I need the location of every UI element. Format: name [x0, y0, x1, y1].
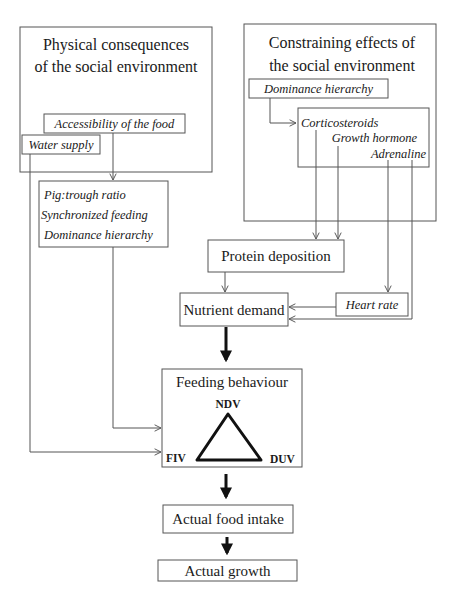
actual-food-intake-label: Actual food intake [172, 511, 284, 527]
vertex-fiv-label: FIV [166, 452, 187, 464]
constraining-title-line2: the social environment [269, 57, 415, 74]
constraining-title-line1: Constraining effects of [269, 34, 416, 52]
physical-title-line1: Physical consequences [43, 36, 189, 54]
physical-consequences-group: Physical consequences of the social envi… [20, 27, 212, 172]
hormone-growth-hormone: Growth hormone [332, 131, 418, 145]
feeding-behaviour-group: Feeding behaviour NDV FIV DUV [162, 369, 302, 467]
pig-factor-synchronized-feeding: Synchronized feeding [41, 208, 148, 222]
arrow-pig-factors-to-feeding [113, 247, 161, 428]
water-supply-label: Water supply [28, 138, 94, 152]
nutrient-demand-label: Nutrient demand [183, 302, 285, 318]
protein-deposition-label: Protein deposition [221, 248, 331, 264]
pig-factor-trough-ratio: Pig:trough ratio [43, 188, 126, 202]
heart-rate-label: Heart rate [345, 298, 399, 312]
feeding-behaviour-title: Feeding behaviour [176, 374, 288, 390]
dominance-hierarchy-label: Dominance hierarchy [263, 82, 373, 96]
hormone-adrenaline: Adrenaline [370, 147, 427, 161]
physical-title-line2: of the social environment [34, 58, 198, 75]
accessibility-label: Accessibility of the food [54, 117, 176, 131]
vertex-duv-label: DUV [270, 453, 296, 465]
constraining-effects-group: Constraining effects of the social envir… [244, 24, 436, 221]
actual-growth-label: Actual growth [184, 563, 271, 579]
social-environment-feeding-diagram: Physical consequences of the social envi… [0, 0, 459, 601]
pig-factors-group: Pig:trough ratio Synchronized feeding Do… [39, 181, 168, 247]
hormone-corticosteroids: Corticosteroids [301, 116, 378, 130]
pig-factor-dominance-hierarchy: Dominance hierarchy [43, 228, 153, 242]
vertex-ndv-label: NDV [216, 398, 242, 410]
